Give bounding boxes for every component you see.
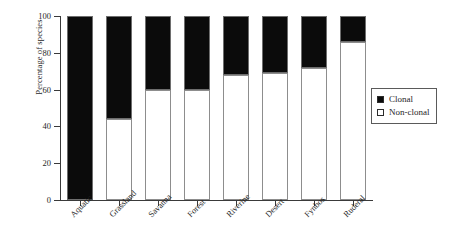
legend-label-clonal: Clonal — [389, 93, 413, 106]
plot-area: 020406080100 AquaticGrasslandSavannaFore… — [60, 16, 373, 200]
bar-segment-non-clonal — [145, 90, 171, 200]
bar-ruderal — [340, 16, 366, 200]
bar-forest — [184, 16, 210, 200]
bar-segment-clonal — [67, 16, 93, 200]
bar-segment-non-clonal — [223, 75, 249, 200]
bar-segment-clonal — [262, 16, 288, 73]
y-tick-label: 40 — [43, 122, 52, 131]
legend-swatch-clonal-icon — [377, 96, 384, 103]
bar-segment-clonal — [145, 16, 171, 90]
bar-segment-clonal — [106, 16, 132, 119]
chart-root: Percentage of species 020406080100 Aquat… — [0, 0, 449, 250]
legend-swatch-non-clonal-icon — [377, 109, 384, 116]
y-tick-label: 100 — [38, 12, 51, 21]
bar-segment-non-clonal — [262, 73, 288, 200]
bar-segment-clonal — [223, 16, 249, 75]
legend-item-non-clonal: Non-clonal — [377, 106, 430, 119]
bar-segment-clonal — [301, 16, 327, 68]
bar-desert — [262, 16, 288, 200]
bar-segment-clonal — [184, 16, 210, 90]
legend-label-non-clonal: Non-clonal — [389, 106, 430, 119]
bar-segment-clonal — [340, 16, 366, 42]
bar-segment-non-clonal — [301, 68, 327, 200]
bar-segment-non-clonal — [106, 119, 132, 200]
legend: Clonal Non-clonal — [371, 88, 437, 124]
y-tick-label: 80 — [43, 49, 52, 58]
bar-group — [60, 16, 373, 200]
bar-aquatic — [67, 16, 93, 200]
bar-grassland — [106, 16, 132, 200]
y-tick-label: 0 — [47, 196, 51, 205]
bar-segment-non-clonal — [340, 42, 366, 200]
y-tick-mark — [54, 200, 60, 201]
bar-savanna — [145, 16, 171, 200]
bar-riverine — [223, 16, 249, 200]
y-tick-label: 20 — [43, 159, 52, 168]
bar-segment-non-clonal — [184, 90, 210, 200]
bar-fynbos — [301, 16, 327, 200]
legend-item-clonal: Clonal — [377, 93, 430, 106]
y-tick-label: 60 — [43, 85, 52, 94]
